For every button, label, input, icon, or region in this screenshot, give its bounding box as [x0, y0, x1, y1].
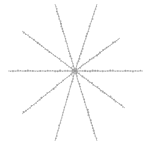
ray-7-marker — [55, 86, 57, 88]
ray-3-marker — [84, 41, 85, 42]
ray-4-marker — [71, 61, 72, 62]
ray-7-marker — [33, 104, 34, 105]
ray-9-marker — [79, 86, 81, 88]
ray-2-marker — [82, 64, 84, 66]
ray-6-marker — [10, 71, 11, 72]
ray-6-marker — [22, 70, 23, 71]
ray-3-marker — [85, 35, 87, 37]
ray-3-marker — [82, 46, 83, 47]
ray-7-marker — [27, 109, 28, 110]
center-cluster-marker — [74, 69, 75, 70]
ray-10-marker — [80, 74, 81, 75]
ray-2-marker — [110, 45, 111, 46]
ray-2-marker — [112, 42, 114, 44]
center-cluster-marker — [71, 71, 73, 73]
ray-8-marker — [67, 93, 69, 95]
ray-7-marker — [45, 94, 47, 96]
ray-9-marker — [84, 101, 86, 103]
ray-1-marker — [105, 71, 106, 72]
ray-9-marker — [85, 107, 87, 109]
ray-1-marker — [122, 71, 123, 72]
ray-10-marker — [122, 106, 123, 107]
ray-1-marker — [140, 70, 142, 72]
ray-7-marker — [23, 111, 25, 113]
ray-10-marker — [104, 92, 106, 94]
ray-9-marker — [93, 132, 95, 134]
ray-2-marker — [116, 40, 117, 41]
ray-8-marker — [56, 135, 58, 137]
ray-5-marker — [43, 47, 44, 48]
ray-10-marker — [95, 86, 96, 87]
ray-8-marker — [72, 75, 74, 77]
ray-6-marker — [67, 70, 69, 72]
ray-10-marker — [108, 95, 109, 96]
ray-7-marker — [35, 103, 36, 104]
ray-5-marker — [46, 49, 48, 51]
ray-7-marker — [43, 96, 44, 97]
ray-4-marker — [69, 55, 71, 57]
ray-4-marker — [66, 43, 68, 45]
ray-1-marker — [97, 70, 99, 72]
ray-6-marker — [39, 70, 41, 72]
ray-3-marker — [76, 65, 77, 66]
ray-6-marker — [54, 70, 56, 72]
ray-7-marker — [64, 78, 65, 79]
ray-3-marker — [95, 8, 97, 10]
ray-9-marker — [76, 78, 77, 79]
ray-5-marker — [33, 39, 35, 41]
ray-4-marker — [58, 16, 60, 18]
ray-7-marker — [62, 80, 64, 82]
ray-5-marker — [29, 36, 31, 38]
ray-1-marker — [107, 70, 109, 72]
ray-9-marker — [81, 91, 82, 92]
ray-8-marker — [58, 124, 60, 126]
ray-5-marker — [51, 52, 52, 53]
ray-10-marker — [81, 75, 83, 77]
ray-10-marker — [100, 90, 102, 92]
ray-4-marker — [65, 40, 67, 42]
ray-4-marker — [56, 6, 57, 7]
ray-3-marker — [93, 13, 95, 15]
ray-7-marker — [56, 84, 58, 86]
ray-2-marker — [91, 58, 93, 60]
ray-5-marker — [59, 58, 61, 60]
ray-9-marker — [77, 81, 79, 83]
ray-1-marker — [127, 70, 128, 71]
ray-10-marker — [83, 77, 85, 79]
ray-6-marker — [37, 71, 38, 72]
ray-6-marker — [59, 70, 61, 72]
ray-10-marker — [78, 72, 80, 74]
ray-8-marker — [62, 117, 63, 118]
ray-10-marker — [117, 102, 118, 103]
ray-1-marker — [82, 70, 84, 72]
ray-10-marker — [87, 79, 89, 81]
ray-4-marker — [72, 65, 74, 67]
ray-8-marker — [62, 114, 64, 116]
ray-8-marker — [71, 83, 72, 84]
ray-3-marker — [78, 58, 80, 60]
ray-9-marker — [90, 119, 92, 121]
ray-2-marker — [95, 56, 96, 57]
ray-2-marker — [114, 41, 116, 43]
ray-5-marker — [23, 32, 25, 34]
ray-4-marker — [56, 11, 58, 13]
ray-8-marker — [55, 138, 57, 140]
ray-8-marker — [66, 99, 67, 100]
ray-8-marker — [64, 107, 65, 108]
ray-3-marker — [92, 16, 93, 17]
ray-5-marker — [39, 43, 41, 45]
ray-3-marker — [80, 53, 82, 55]
ray-4-marker — [63, 33, 65, 35]
ray-5-marker — [68, 66, 70, 68]
ray-4-marker — [60, 20, 62, 22]
ray-7-marker — [39, 99, 41, 101]
ray-1-marker — [112, 69, 114, 71]
ray-4-marker — [71, 58, 73, 60]
ray-2-marker — [96, 54, 98, 56]
center-cluster-marker — [76, 71, 77, 72]
ray-8-marker — [56, 133, 57, 134]
ray-3-marker — [82, 48, 84, 50]
ray-9-marker — [85, 104, 86, 105]
ray-9-marker — [83, 99, 85, 101]
ray-2-marker — [118, 39, 119, 40]
